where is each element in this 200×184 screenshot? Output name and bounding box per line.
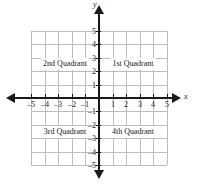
y-axis-tick-label: 1: [92, 81, 96, 90]
x-axis-tick-label: –2: [68, 100, 76, 109]
x-axis-arrow-left-icon: [6, 93, 15, 103]
x-axis-tick: [140, 94, 141, 99]
x-axis-label: x: [184, 92, 188, 101]
y-axis-label: y: [93, 0, 97, 9]
y-axis-arrow-down-icon: [94, 170, 104, 179]
y-axis-tick-label: –3: [88, 134, 96, 143]
x-axis-tick: [126, 94, 127, 99]
x-axis-tick-label: –3: [54, 100, 62, 109]
y-axis-tick: [96, 152, 101, 153]
quadrant-label-third: 3rd Quadrant: [42, 126, 88, 138]
x-axis-line: [14, 97, 175, 99]
coordinate-plane-figure: –5–4–3–2–11234554321–1–2–3–4–5 x y 2nd Q…: [0, 0, 200, 184]
y-axis-tick-label: –1: [88, 107, 96, 116]
x-axis-tick: [85, 94, 86, 99]
x-axis-tick: [58, 94, 59, 99]
quadrant-label-second: 2nd Quadrant: [41, 58, 89, 70]
y-axis-tick: [96, 165, 101, 166]
y-axis-tick: [96, 71, 101, 72]
quadrant-label-fourth: 4th Quadrant: [110, 126, 156, 138]
y-axis-line: [98, 13, 100, 172]
x-axis-tick: [72, 94, 73, 99]
y-axis-tick-label: 4: [92, 40, 96, 49]
y-axis-tick: [96, 138, 101, 139]
x-axis-tick-label: 3: [138, 100, 142, 109]
x-axis-tick-label: 1: [111, 100, 115, 109]
x-axis-arrow-right-icon: [172, 93, 181, 103]
quadrant-label-first: 1st Quadrant: [110, 58, 155, 70]
y-axis-tick-label: 5: [92, 27, 96, 36]
x-axis-tick: [45, 94, 46, 99]
x-axis-tick: [167, 94, 168, 99]
y-axis-tick-label: 2: [92, 67, 96, 76]
x-axis-tick-label: 2: [124, 100, 128, 109]
y-axis-tick-label: –4: [88, 148, 96, 157]
y-axis-tick: [96, 31, 101, 32]
y-axis-tick: [96, 111, 101, 112]
x-axis-tick-label: 4: [151, 100, 155, 109]
y-axis-tick: [96, 44, 101, 45]
x-axis-tick-label: –5: [27, 100, 35, 109]
x-axis-tick-label: –4: [41, 100, 49, 109]
x-axis-tick: [153, 94, 154, 99]
y-axis-tick-label: 3: [92, 54, 96, 63]
x-axis-tick: [31, 94, 32, 99]
y-axis-tick-label: –2: [88, 121, 96, 130]
y-axis-tick-label: –5: [88, 161, 96, 170]
x-axis-tick: [113, 94, 114, 99]
x-axis-tick-label: 5: [165, 100, 169, 109]
y-axis-tick: [96, 125, 101, 126]
y-axis-tick: [96, 58, 101, 59]
y-axis-tick: [96, 85, 101, 86]
